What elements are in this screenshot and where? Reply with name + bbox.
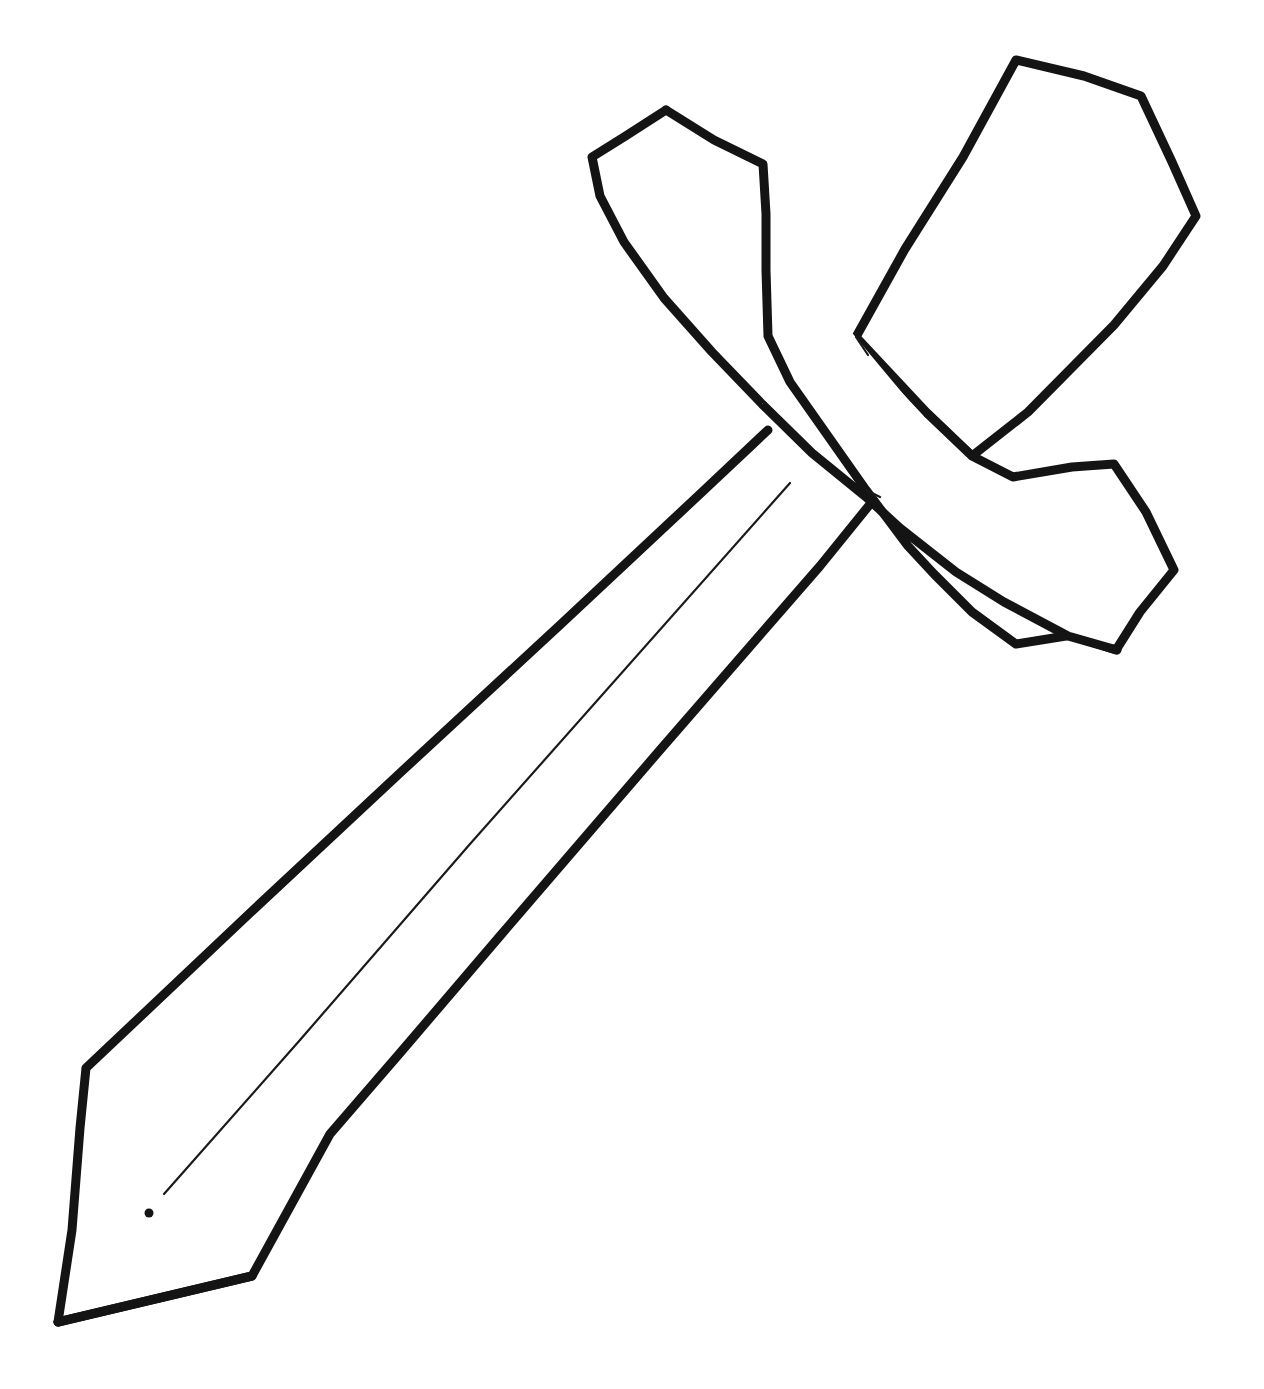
fuller-end-dot [145, 1209, 154, 1218]
coloring-page-canvas: Sword sword hand-drawn black outline, no… [0, 0, 1264, 1389]
sword-line-art [0, 0, 1264, 1389]
